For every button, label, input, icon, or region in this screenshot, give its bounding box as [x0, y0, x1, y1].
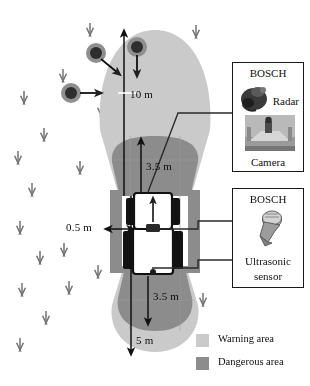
- camera-label: Camera: [233, 156, 303, 168]
- bosch-brand-label-2: BOSCH: [233, 193, 303, 205]
- sensor-coverage-figure: 10 m 3.5 m 0.5 m 3.5 m 5 m BOSCH Radar C…: [0, 0, 310, 386]
- radar-label: Radar: [273, 95, 299, 107]
- ultrasonic-label-line2: sensor: [233, 270, 303, 282]
- radar-sensor-icon: [236, 83, 274, 113]
- legend-label-warning: Warning area: [218, 333, 274, 344]
- ultrasonic-label-line1: Ultrasonic: [233, 255, 303, 267]
- legend-label-dangerous: Dangerous area: [218, 356, 284, 367]
- sensor-box-radar-camera: BOSCH Radar Camera: [232, 62, 304, 172]
- sensor-box-ultrasonic: BOSCH Ultrasonic sensor: [232, 188, 304, 288]
- dimension-label-side-dangerous: 0.5 m: [66, 221, 92, 233]
- dimension-label-rear-dangerous: 3.5 m: [153, 290, 179, 302]
- camera-photo-icon: [245, 115, 295, 151]
- dimension-label-front-warning: 10 m: [130, 88, 153, 100]
- bosch-brand-label: BOSCH: [233, 67, 303, 79]
- dimension-label-front-dangerous: 3.5 m: [146, 160, 172, 172]
- legend-swatch-dangerous: [196, 357, 209, 370]
- tractor-top-view: [123, 193, 183, 275]
- obstacle-3: [61, 83, 99, 103]
- ultrasonic-sensor-icon: [251, 209, 291, 249]
- legend-swatch-warning: [196, 334, 209, 347]
- dimension-label-rear-warning: 5 m: [136, 334, 153, 346]
